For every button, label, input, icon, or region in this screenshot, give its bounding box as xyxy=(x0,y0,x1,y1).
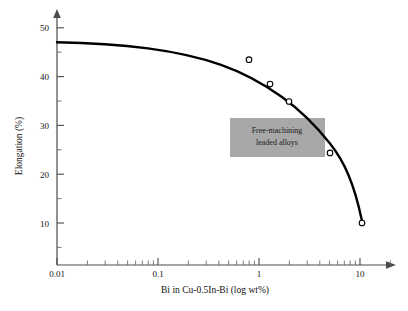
x-tick-label-0-01: 0.01 xyxy=(49,269,65,279)
y-tick-label-10: 10 xyxy=(40,219,50,229)
free-machining-label-line1: Free-machining xyxy=(252,126,303,135)
free-machining-label-line2: leaded alloys xyxy=(256,138,298,147)
y-axis-minor-ticks xyxy=(57,52,62,247)
y-axis-arrow-icon xyxy=(53,9,61,18)
y-tick-label-30: 30 xyxy=(40,121,50,131)
x-tick-label-0-1: 0.1 xyxy=(152,269,163,279)
y-tick-label-50: 50 xyxy=(40,23,50,33)
y-axis-major-ticks xyxy=(57,28,64,223)
x-axis-title: Bi in Cu-0.5In-Bi (log wt%) xyxy=(161,285,269,296)
data-point-marker xyxy=(359,220,365,226)
x-tick-label-1: 1 xyxy=(257,269,262,279)
y-axis-title: Elongation (%) xyxy=(14,117,25,175)
y-tick-label-20: 20 xyxy=(40,170,50,180)
data-point-marker xyxy=(267,81,273,87)
data-point-marker xyxy=(327,150,333,156)
x-axis-minor-ticks xyxy=(87,261,390,266)
data-point-marker xyxy=(246,57,252,63)
x-axis-major-ticks xyxy=(57,258,360,265)
data-point-marker xyxy=(286,99,292,105)
x-axis-arrow-icon xyxy=(386,261,396,269)
chart-canvas: 10 20 30 40 50 xyxy=(0,0,408,311)
y-tick-label-40: 40 xyxy=(40,72,50,82)
chart-figure: 10 20 30 40 50 xyxy=(0,0,408,311)
x-tick-label-10: 10 xyxy=(356,269,366,279)
